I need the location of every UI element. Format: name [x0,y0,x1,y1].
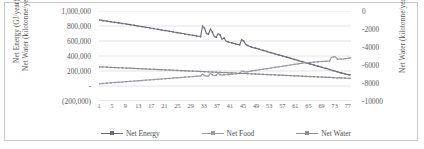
y-axis-left-tick-label: 400,000 [21,52,91,61]
series-marker [262,50,264,52]
series-marker [325,68,327,70]
series-marker [122,67,124,69]
series-marker [180,70,182,72]
series-marker [344,58,346,60]
series-marker [341,58,343,60]
series-marker [180,77,182,79]
series-marker [274,67,276,69]
series-marker [251,73,253,75]
series-marker [348,78,350,80]
plot-area [99,11,351,101]
series-marker [141,68,143,70]
series-marker [212,71,214,73]
legend-item-net-food[interactable]: Net Food [202,129,255,138]
series-marker [243,40,245,42]
series-marker [274,74,276,76]
x-axis-tick-label: 1 [92,102,106,109]
series-marker [341,72,343,74]
series-marker [208,34,210,36]
series-marker [216,75,218,77]
legend-item-net-water[interactable]: Net Water [296,129,351,138]
series-marker [133,25,135,27]
x-axis-tick-label: 69 [315,102,329,109]
series-marker [255,70,257,72]
series-marker [153,28,155,30]
series-marker [239,73,241,75]
series-marker [145,68,147,70]
x-axis-tick-label: 13 [131,102,145,109]
series-marker [262,69,264,71]
series-marker [122,81,124,83]
series-marker [137,68,139,70]
series-marker [313,76,315,78]
x-axis-tick-label: 61 [288,102,302,109]
series-marker [102,83,104,85]
series-marker [141,80,143,82]
series-marker [153,69,155,71]
series-marker [114,22,115,24]
series-marker [321,76,323,78]
series-marker [126,81,128,83]
series-marker [165,30,167,32]
series-marker [173,31,175,32]
y-axis-left-tick-label: - [21,82,91,91]
x-axis-tick-label: 21 [157,102,171,109]
series-marker [216,72,218,74]
series-marker [110,82,112,84]
series-marker [200,36,202,38]
series-marker [122,23,124,25]
series-marker [137,25,139,27]
legend-item-net-energy[interactable]: Net Energy [101,129,160,138]
series-marker [192,70,194,72]
series-marker [169,69,171,71]
series-marker [133,68,135,70]
series-marker [274,53,276,55]
x-axis-tick-label: 77 [341,102,355,109]
series-marker [348,57,350,59]
x-axis-tick-label: 33 [197,102,211,109]
series-marker [188,34,190,36]
series-marker [255,47,257,49]
series-marker [169,78,171,80]
series-marker [305,62,307,64]
series-marker [305,76,307,78]
chart-legend: Net EnergyNet FoodNet Water [101,127,351,139]
series-marker [286,56,288,58]
series-marker [153,79,155,81]
series-marker [208,71,210,73]
series-marker [216,37,218,39]
series-marker [176,70,178,72]
series-marker [204,75,206,77]
series-marker [231,42,233,44]
y-axis-right-tick-label: 0 [362,7,410,16]
series-marker [282,75,284,77]
series-marker [161,29,163,31]
series-marker [337,71,339,73]
series-marker [317,76,319,78]
series-marker [251,46,253,48]
y-axis-left-tick-label: 600,000 [21,37,91,46]
series-marker [309,76,311,78]
series-marker [110,67,112,69]
series-marker [235,43,237,45]
series-marker [114,82,115,84]
series-marker [298,63,300,65]
x-axis-tick-label: 73 [328,102,342,109]
series-marker [313,61,315,63]
series-marker [337,58,339,60]
series-marker [286,75,288,77]
series-marker [317,61,319,63]
series-marker [126,23,128,25]
x-axis-tick-label: 45 [236,102,250,109]
series-marker [282,66,284,68]
series-marker [301,75,303,77]
series-marker [99,66,100,68]
series-marker [301,61,303,63]
series-marker [325,77,327,79]
series-marker [149,79,151,81]
y-axis-left-tick-label: 1,000,000 [21,7,91,16]
series-marker [130,24,132,26]
x-axis-tick-label: 41 [223,102,237,109]
series-marker [344,73,346,75]
series-marker [188,76,190,78]
